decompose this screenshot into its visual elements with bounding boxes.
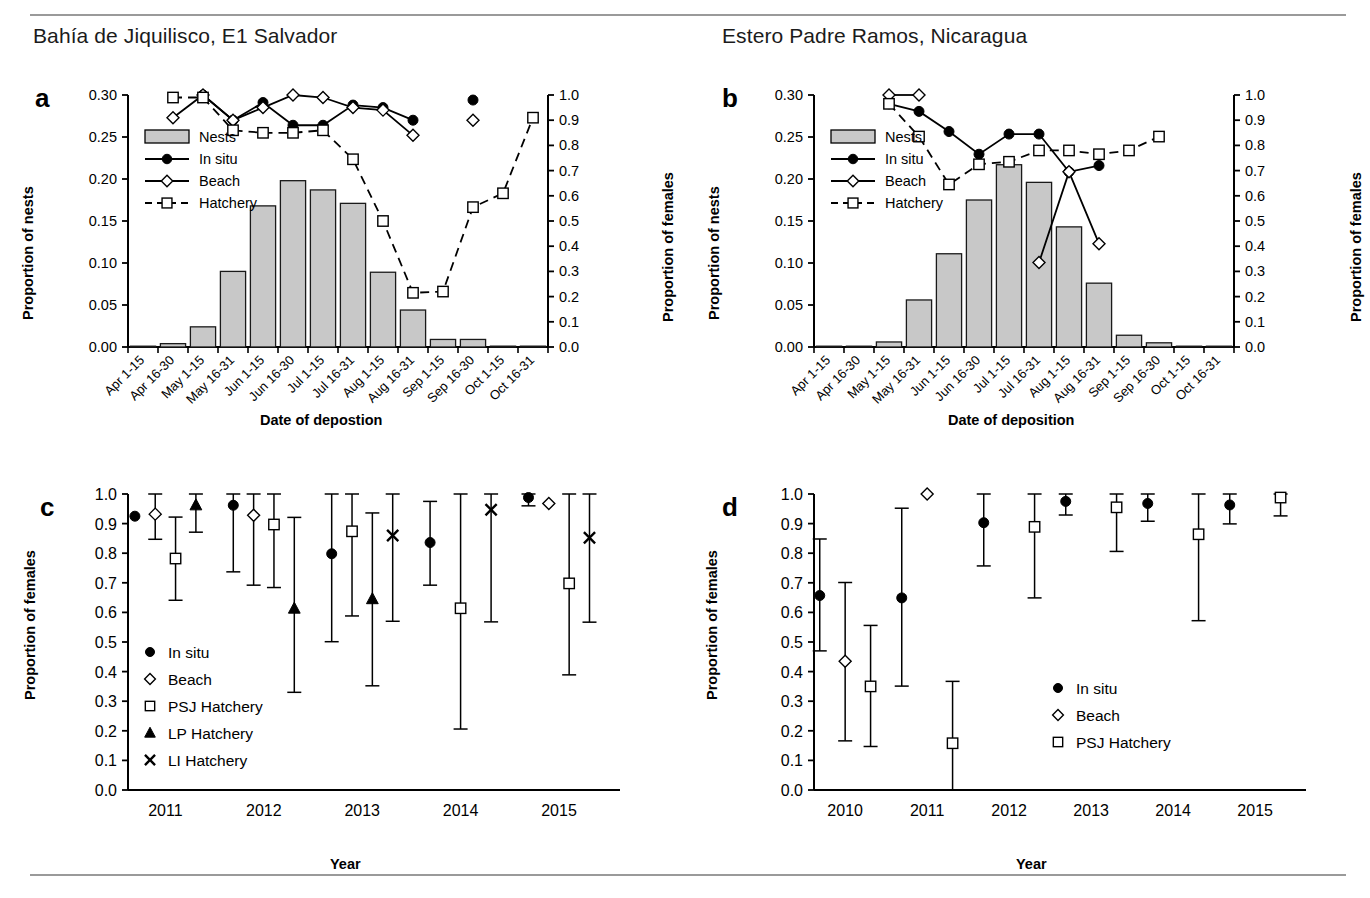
marker-open-diamond	[467, 114, 479, 126]
marker-open-diamond	[317, 92, 329, 104]
footer-rule	[30, 874, 1346, 876]
marker-filled-circle	[1094, 161, 1104, 171]
marker-open-diamond	[145, 674, 156, 685]
x-year-label: 2013	[1073, 802, 1109, 819]
x-year-label: 2015	[1237, 802, 1273, 819]
x-year-label: 2013	[344, 802, 380, 819]
marker-open-square	[348, 154, 358, 164]
svg-c-root: 0.00.10.20.30.40.50.60.70.80.91.02011201…	[95, 486, 620, 819]
marker-filled-triangle	[366, 593, 378, 604]
y-tick-label-left: 0.20	[775, 171, 803, 187]
y-tick-label-left: 0.30	[89, 87, 117, 103]
marker-filled-circle	[1225, 500, 1235, 510]
marker-open-square	[198, 92, 208, 102]
bar	[370, 272, 395, 347]
marker-open-square	[1029, 522, 1039, 532]
y-tick-label: 0.2	[95, 723, 117, 740]
legend-label: Beach	[885, 173, 926, 189]
svg-a-root: 0.000.050.100.150.200.250.300.00.10.20.3…	[89, 87, 579, 407]
y-tick-label: 1.0	[781, 486, 803, 503]
y-tick-label-right: 0.3	[1245, 263, 1265, 279]
marker-open-square	[1275, 492, 1285, 502]
marker-open-diamond	[287, 89, 299, 101]
y-tick-label: 0.4	[781, 664, 803, 681]
marker-open-square	[347, 526, 357, 536]
marker-open-diamond	[1093, 238, 1105, 250]
marker-open-square	[865, 681, 875, 691]
x-year-label: 2011	[910, 802, 945, 819]
y-tick-label: 0.9	[781, 516, 803, 533]
y-tick-label-right: 0.5	[1245, 213, 1265, 229]
marker-open-diamond	[913, 89, 925, 101]
bar	[966, 200, 991, 347]
svg-d-root: 0.00.10.20.30.40.50.60.70.80.91.02010201…	[781, 486, 1306, 819]
marker-filled-circle	[468, 95, 478, 105]
y-tick-label-left: 0.05	[775, 297, 803, 313]
y-tick-label-left: 0.00	[89, 339, 117, 355]
y-tick-label: 0.1	[781, 752, 803, 769]
marker-filled-circle	[146, 648, 155, 657]
bar	[160, 344, 185, 347]
legend-label: Hatchery	[199, 195, 258, 211]
legend-label: Beach	[168, 671, 212, 688]
y-tick-label-right: 0.2	[1245, 289, 1265, 305]
marker-open-square	[288, 128, 298, 138]
y-tick-label-right: 0.1	[1245, 314, 1265, 330]
marker-filled-circle	[162, 154, 172, 164]
bar	[996, 165, 1021, 347]
y-tick-label-right: 0.6	[559, 188, 579, 204]
marker-open-square	[498, 188, 508, 198]
marker-open-square	[1193, 529, 1203, 539]
bar	[816, 346, 841, 347]
y-tick-label-right: 0.6	[1245, 188, 1265, 204]
bar	[520, 346, 545, 347]
panel-a-y2label: Proportion of females	[660, 172, 676, 322]
bar	[1146, 343, 1171, 347]
panel-d-plot: 0.00.10.20.30.40.50.60.70.80.91.02010201…	[706, 470, 1346, 840]
y-tick-label-left: 0.15	[89, 213, 117, 229]
bar	[220, 271, 245, 347]
y-tick-label-right: 0.8	[1245, 137, 1265, 153]
y-tick-label-left: 0.30	[775, 87, 803, 103]
y-tick-label-right: 0.9	[559, 112, 579, 128]
marker-filled-triangle	[145, 727, 156, 737]
marker-open-square	[1053, 737, 1062, 746]
y-tick-label-left: 0.20	[89, 171, 117, 187]
bar	[250, 206, 275, 347]
legend-label: In situ	[1076, 680, 1117, 697]
legend-label: Beach	[1076, 707, 1120, 724]
marker-filled-circle	[1061, 496, 1071, 506]
marker-open-diamond	[543, 497, 555, 509]
marker-open-square	[168, 92, 178, 102]
panel-b-title: Estero Padre Ramos, Nicaragua	[722, 24, 1027, 48]
legend-label: Beach	[199, 173, 240, 189]
legend-label: In situ	[199, 151, 238, 167]
y-tick-label-right: 0.4	[1245, 238, 1265, 254]
marker-open-square	[318, 125, 328, 135]
marker-open-square	[1094, 149, 1104, 159]
marker-filled-circle	[897, 593, 907, 603]
marker-filled-circle	[974, 149, 984, 159]
y-tick-label: 0.4	[95, 664, 117, 681]
y-tick-label-right: 0.0	[1245, 339, 1265, 355]
bar	[190, 327, 215, 347]
marker-open-square	[269, 519, 279, 529]
marker-filled-circle	[327, 549, 337, 559]
marker-open-square	[944, 179, 954, 189]
y-tick-label: 0.5	[95, 634, 117, 651]
marker-filled-circle	[523, 493, 533, 503]
bar	[1176, 346, 1201, 347]
y-tick-label-right: 0.5	[559, 213, 579, 229]
marker-open-square	[145, 701, 154, 710]
bar	[340, 203, 365, 347]
marker-filled-circle	[228, 500, 238, 510]
y-tick-label-right: 0.3	[559, 263, 579, 279]
y-tick-label-right: 0.1	[559, 314, 579, 330]
y-tick-label-left: 0.10	[89, 255, 117, 271]
bar	[846, 346, 871, 347]
figure-page: Bahía de Jiquilisco, E1 Salvador a Propo…	[0, 0, 1370, 898]
y-tick-label: 0.3	[781, 693, 803, 710]
y-tick-label-right: 0.4	[559, 238, 579, 254]
marker-open-square	[258, 128, 268, 138]
marker-cross-x	[145, 755, 155, 765]
